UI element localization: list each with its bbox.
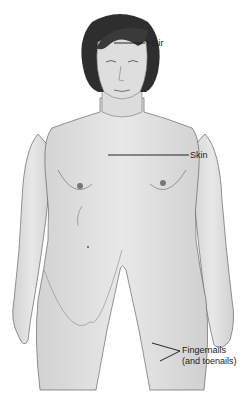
label-fingernails: Fingernails: [182, 345, 226, 355]
nipple-left: [77, 183, 83, 189]
body-illustration: [0, 0, 247, 397]
label-toenails: (and toenails): [182, 356, 237, 366]
label-hair: Hair: [147, 38, 164, 48]
navel: [87, 246, 89, 248]
nipple-right: [160, 180, 166, 186]
label-skin: Skin: [190, 150, 208, 160]
